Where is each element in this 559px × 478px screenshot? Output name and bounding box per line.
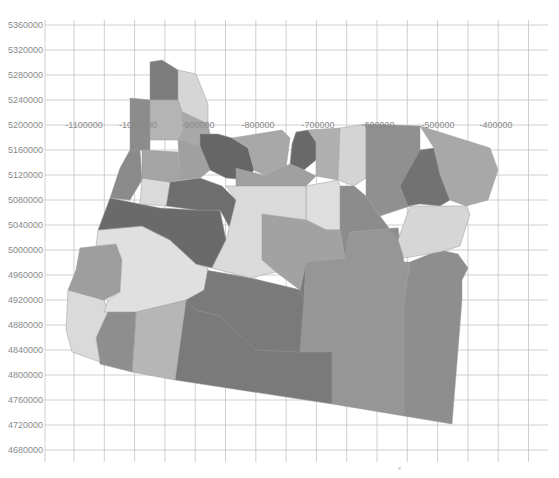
county-morrow [338, 124, 366, 186]
map-figure: 5360000532000052800005240000520000051600… [0, 0, 559, 478]
y-tick-label: 4760000 [8, 395, 43, 405]
x-tick-label: -1100000 [65, 120, 102, 130]
county-coos [68, 244, 122, 300]
y-tick-label: 5040000 [8, 220, 43, 230]
y-tick-label: 5160000 [8, 145, 43, 155]
county-benton [140, 178, 170, 206]
y-tick-label: 5280000 [8, 70, 43, 80]
y-tick-label: 4800000 [8, 370, 43, 380]
y-tick-label: 5360000 [8, 20, 43, 30]
y-tick-label: 5240000 [8, 95, 43, 105]
y-tick-label: 5120000 [8, 170, 43, 180]
county-polk [142, 150, 180, 182]
y-tick-label: 5000000 [8, 245, 43, 255]
y-tick-label: 4960000 [8, 270, 43, 280]
y-tick-label: 5320000 [8, 45, 43, 55]
x-tick-label: -1000000 [119, 120, 157, 130]
y-tick-label: 4680000 [8, 445, 43, 455]
y-tick-label: 4720000 [8, 420, 43, 430]
county-clatsop [150, 60, 178, 100]
y-axis-labels: 5360000532000052800005240000520000051600… [8, 20, 43, 455]
county-malheur [404, 250, 468, 424]
x-tick-label: -700000 [301, 120, 334, 130]
x-tick-label: -900000 [181, 120, 214, 130]
y-tick-label: 4840000 [8, 345, 43, 355]
y-tick-label: 5200000 [8, 120, 43, 130]
y-tick-label: 4920000 [8, 295, 43, 305]
footer-mark: x [398, 465, 401, 471]
x-tick-label: -800000 [241, 120, 274, 130]
y-tick-label: 5080000 [8, 195, 43, 205]
x-tick-label: -500000 [421, 120, 454, 130]
oregon-state [66, 60, 498, 424]
y-tick-label: 4880000 [8, 320, 43, 330]
x-tick-label: -400000 [479, 120, 512, 130]
x-tick-label: -600000 [361, 120, 394, 130]
